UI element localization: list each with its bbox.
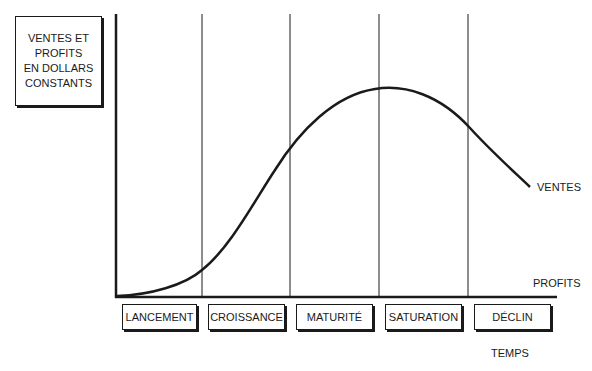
profits-curve-label: PROFITS [533, 277, 581, 289]
y-axis-label-line: PROFITS [24, 46, 94, 61]
y-axis-label-line: EN DOLLARS [24, 61, 94, 76]
stage-maturite: MATURITÉ [296, 304, 373, 330]
stage-declin: DÉCLIN [474, 304, 551, 330]
stage-lancement: LANCEMENT [122, 304, 197, 330]
y-axis-label-line: VENTES ET [24, 31, 94, 46]
stage-croissance: CROISSANCE [208, 304, 285, 330]
y-axis-label-line: CONSTANTS [24, 76, 94, 91]
stage-saturation: SATURATION [385, 304, 462, 330]
x-axis-label: TEMPS [491, 347, 529, 359]
sales-curve-label: VENTES [537, 181, 581, 193]
y-axis-label: VENTES ET PROFITS EN DOLLARS CONSTANTS [15, 16, 102, 106]
